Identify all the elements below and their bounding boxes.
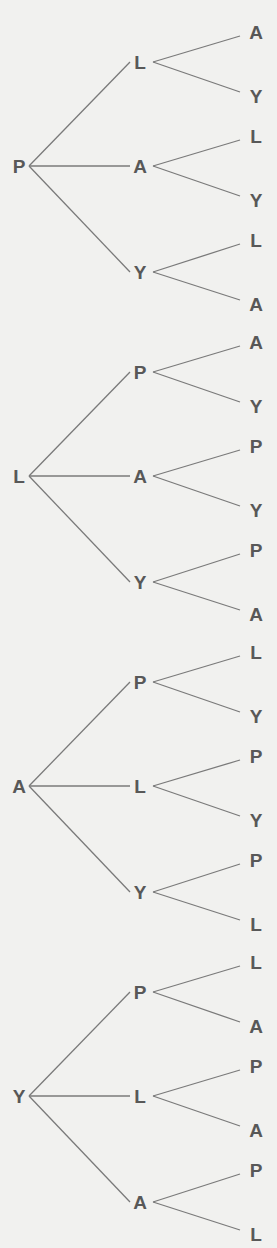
tree-branch-node: Y [134, 883, 147, 902]
tree-leaf-node: P [250, 437, 263, 456]
tree-edge [153, 372, 240, 402]
tree-branch-node: A [133, 1193, 147, 1212]
tree-edge [153, 450, 240, 476]
tree-edge [29, 992, 130, 1096]
tree-edge [153, 582, 240, 610]
tree-branch-node: P [134, 673, 147, 692]
tree-branch-node: Y [134, 263, 147, 282]
tree-edge [153, 272, 240, 300]
tree-edge [29, 786, 130, 892]
tree-leaf-node: P [250, 747, 263, 766]
tree-leaf-node: A [249, 333, 263, 352]
tree-branch-node: L [134, 777, 146, 796]
tree-edge [29, 1096, 130, 1202]
tree-leaf-node: P [250, 1161, 263, 1180]
tree-root-node: L [13, 467, 25, 486]
tree-leaf-node: Y [250, 501, 263, 520]
tree-leaf-node: P [250, 851, 263, 870]
tree-leaf-node: L [250, 643, 262, 662]
tree-edge [29, 166, 130, 272]
tree-leaf-node: L [250, 231, 262, 250]
tree-leaf-node: Y [250, 397, 263, 416]
tree-leaf-node: L [250, 953, 262, 972]
tree-edge [153, 760, 240, 786]
tree-leaf-node: A [249, 23, 263, 42]
tree-edges [0, 0, 277, 1248]
tree-edge [153, 864, 240, 892]
tree-edge [153, 62, 240, 92]
tree-edge [29, 682, 130, 786]
tree-edge [153, 140, 240, 166]
tree-root-node: A [12, 777, 26, 796]
tree-edge [153, 992, 240, 1022]
tree-edge [29, 62, 130, 166]
tree-edge [29, 372, 130, 476]
tree-edge [153, 656, 240, 682]
tree-leaf-node: Y [250, 87, 263, 106]
permutation-tree-diagram: PLAYALYYLALPAYAPYYPAAPLYLPYYPLYPLALPAAPL [0, 0, 277, 1248]
tree-branch-node: P [134, 363, 147, 382]
tree-edge [153, 476, 240, 506]
tree-edge [153, 786, 240, 816]
tree-edge [153, 36, 240, 62]
tree-edge [153, 346, 240, 372]
tree-edge [153, 1096, 240, 1126]
tree-branch-node: Y [134, 573, 147, 592]
tree-root-node: Y [13, 1087, 26, 1106]
tree-edge [153, 1202, 240, 1230]
tree-branch-node: A [133, 467, 147, 486]
tree-leaf-node: Y [250, 707, 263, 726]
tree-edge [153, 1174, 240, 1202]
tree-leaf-node: L [250, 127, 262, 146]
tree-edge [153, 682, 240, 712]
tree-leaf-node: P [250, 541, 263, 560]
tree-edge [153, 554, 240, 582]
tree-edge [153, 966, 240, 992]
tree-leaf-node: A [249, 1017, 263, 1036]
tree-leaf-node: L [250, 915, 262, 934]
tree-leaf-node: Y [250, 811, 263, 830]
tree-edge [29, 476, 130, 582]
tree-edge [153, 244, 240, 272]
tree-leaf-node: Y [250, 191, 263, 210]
tree-branch-node: L [134, 53, 146, 72]
tree-root-node: P [13, 157, 26, 176]
tree-edge [153, 1070, 240, 1096]
tree-branch-node: L [134, 1087, 146, 1106]
tree-edge [153, 166, 240, 196]
tree-leaf-node: P [250, 1057, 263, 1076]
tree-leaf-node: A [249, 605, 263, 624]
tree-edge [153, 892, 240, 920]
tree-leaf-node: A [249, 1121, 263, 1140]
tree-leaf-node: A [249, 295, 263, 314]
tree-leaf-node: L [250, 1225, 262, 1244]
tree-branch-node: P [134, 983, 147, 1002]
tree-branch-node: A [133, 157, 147, 176]
